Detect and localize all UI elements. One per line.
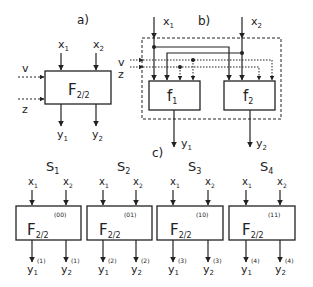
panel-c-label: c): [152, 146, 163, 160]
state-s4: S4 x1 x2 (11) F2/2 (4) (4) y1 y2: [229, 159, 295, 277]
panel-b-label: b): [198, 14, 210, 28]
s1-x2: x2: [63, 176, 73, 189]
s3-y1: y1: [168, 263, 179, 277]
state-s2: S2 x1 x2 (01) F2/2 (2) (2) y1 y2: [87, 159, 152, 277]
s4-label: S4: [260, 159, 273, 176]
panel-c: c) S1 x1 x2 (00) F2/2 (1) (1) y1 y2 S2 x…: [16, 146, 295, 277]
s3-x1: x1: [170, 176, 180, 189]
s4-y2-sup: (4): [285, 257, 294, 264]
b-input-z-label: z: [118, 68, 124, 81]
s4-y1-sup: (4): [251, 257, 260, 264]
s1-label: S1: [46, 159, 59, 176]
s4-y2: y2: [275, 263, 286, 277]
state-s3: S3 x1 x2 (10) F2/2 (3) (3) y1 y2: [157, 159, 223, 277]
b-x1-to-f2: [154, 47, 229, 80]
s4-y1: y1: [241, 263, 252, 277]
input-x1-label: x1: [58, 38, 69, 53]
input-v-label: v: [22, 62, 29, 75]
s4-x1: x1: [242, 176, 252, 189]
s1-y1-sup: (1): [37, 257, 46, 264]
s3-y1-sup: (3): [178, 257, 187, 264]
b-input-x2-label: x2: [251, 15, 262, 30]
s2-x1: x1: [99, 176, 109, 189]
s2-y2: y2: [131, 263, 142, 277]
output-y1-label: y1: [57, 128, 68, 143]
s3-code: (10): [196, 211, 208, 218]
s1-y2: y2: [61, 263, 72, 277]
input-x2-label: x2: [93, 38, 104, 53]
s3-y2-sup: (3): [213, 257, 222, 264]
s3-x2: x2: [205, 176, 215, 189]
s3-y2: y2: [203, 263, 214, 277]
input-z-label: z: [22, 103, 28, 116]
s4-x2: x2: [277, 176, 287, 189]
s1-x1: x1: [28, 176, 38, 189]
s1-y2-sup: (1): [71, 257, 80, 264]
s3-label: S3: [188, 159, 201, 176]
s2-label: S2: [117, 159, 130, 176]
output-y2-label: y2: [92, 128, 103, 143]
s2-x2: x2: [133, 176, 143, 189]
b-output-y1-label: y1: [181, 137, 192, 152]
s2-y1: y1: [98, 263, 109, 277]
panel-a-label: a): [77, 13, 89, 27]
s4-code: (11): [268, 211, 280, 218]
s1-code: (00): [54, 211, 66, 218]
b-v-to-f2: [143, 60, 272, 80]
s2-y2-sup: (2): [141, 257, 150, 264]
state-s1: S1 x1 x2 (00) F2/2 (1) (1) y1 y2: [16, 159, 81, 277]
s2-code: (01): [124, 211, 136, 218]
panel-b: b) x1 x2 v z f1 f2 y1: [118, 14, 281, 152]
diagram-canvas: a) x1 x2 v z F2/2 y1 y2 b) x1 x2 v z: [0, 0, 313, 287]
b-output-y2-label: y2: [256, 137, 267, 152]
s1-y1: y1: [27, 263, 38, 277]
b-input-x1-label: x1: [163, 15, 174, 30]
panel-a: a) x1 x2 v z F2/2 y1 y2: [18, 13, 111, 143]
s2-y1-sup: (2): [108, 257, 117, 264]
